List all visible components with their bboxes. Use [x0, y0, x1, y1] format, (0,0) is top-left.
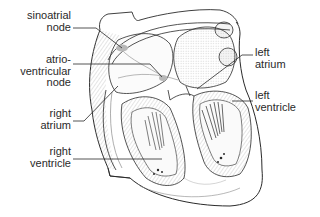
label-line: atrium: [40, 120, 71, 132]
label-left-atrium: left atrium: [255, 47, 286, 70]
label-line: node: [20, 77, 71, 89]
atrioventricular-node-shape: [159, 75, 167, 81]
label-atrioventricular-node: atrio- ventricular node: [20, 54, 71, 89]
label-left-ventricle: left ventricle: [255, 90, 296, 113]
left-atrium-chamber: [174, 27, 235, 88]
label-right-atrium: right atrium: [40, 108, 71, 131]
label-line: node: [27, 22, 71, 34]
label-line: left: [255, 47, 286, 59]
label-line: atrio-: [20, 54, 71, 66]
label-line: sinoatrial: [27, 10, 71, 22]
label-line: ventricle: [255, 102, 296, 114]
label-sinoatrial-node: sinoatrial node: [27, 10, 71, 33]
label-line: right: [40, 108, 71, 120]
label-line: left: [255, 90, 296, 102]
label-line: right: [30, 146, 71, 158]
label-line: atrium: [255, 59, 286, 71]
label-right-ventricle: right ventricle: [30, 146, 71, 169]
label-line: ventricle: [30, 158, 71, 170]
